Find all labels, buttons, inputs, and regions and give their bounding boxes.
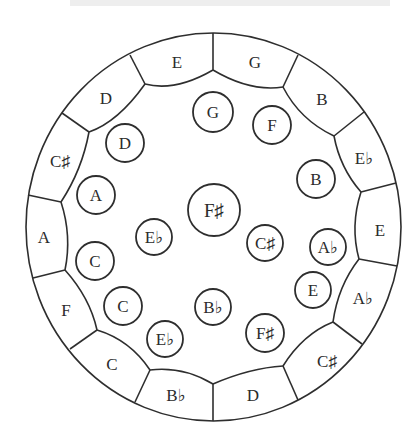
svg-text:C: C (89, 252, 100, 271)
ring-label-b: B (316, 90, 327, 109)
ring-label-d-2: D (100, 89, 112, 108)
ring-label-b-flat: B♭ (166, 386, 185, 405)
note-e-flat: E♭ (136, 219, 172, 255)
inner-notes: G F D B A F♯ E♭ C♯ (76, 92, 346, 357)
svg-text:B: B (310, 170, 321, 189)
ring-label-c-sharp: C♯ (317, 352, 337, 371)
note-f: F (253, 106, 291, 144)
note-b-flat: B♭ (195, 289, 231, 325)
note-e: E (295, 272, 331, 308)
svg-text:F♯: F♯ (204, 200, 224, 221)
svg-text:F: F (267, 116, 276, 135)
ring-label-g: G (249, 53, 261, 72)
note-a-flat: A♭ (310, 229, 346, 265)
svg-text:C: C (117, 297, 128, 316)
svg-text:E♭: E♭ (156, 330, 174, 349)
ring-label-d: D (247, 386, 259, 405)
ring-label-e-flat: E♭ (355, 149, 373, 168)
ring-label-e: E (172, 53, 182, 72)
svg-text:A♭: A♭ (318, 238, 338, 257)
note-c-2: C (104, 287, 142, 325)
ring-label-c: C (106, 355, 117, 374)
note-f-sharp: F♯ (246, 314, 284, 352)
svg-text:E♭: E♭ (145, 228, 163, 247)
svg-text:B♭: B♭ (203, 298, 222, 317)
note-f-sharp-center: F♯ (188, 184, 240, 236)
ring-label-a: A (38, 228, 51, 247)
pitch-circle-diagram: E G B E♭ E A♭ C♯ D B♭ C F A C♯ D G F D B (0, 0, 420, 434)
svg-text:E: E (308, 281, 318, 300)
note-g: G (193, 92, 233, 132)
svg-text:C♯: C♯ (255, 234, 275, 253)
note-b: B (297, 160, 335, 198)
svg-text:D: D (119, 134, 131, 153)
note-d: D (106, 124, 144, 162)
ring-label-c-sharp-2: C♯ (50, 152, 70, 171)
ring-label-a-flat: A♭ (353, 289, 373, 308)
cropped-caption (70, 0, 390, 6)
ring-label-f: F (61, 301, 70, 320)
note-a: A (77, 176, 115, 214)
ring-label-e-2: E (375, 221, 385, 240)
svg-text:A: A (90, 186, 103, 205)
svg-text:G: G (207, 103, 219, 122)
note-c-sharp: C♯ (247, 225, 283, 261)
note-c: C (76, 242, 114, 280)
note-e-flat-2: E♭ (147, 321, 183, 357)
svg-text:F♯: F♯ (256, 324, 274, 343)
